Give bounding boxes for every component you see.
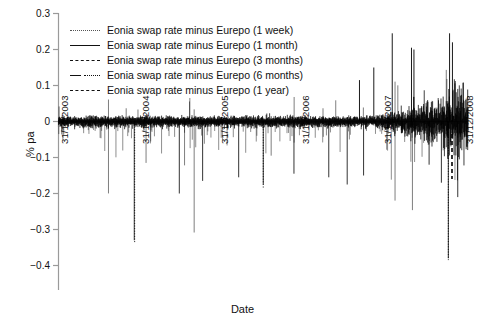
chart-container: % pa Date 0.3 0.2 0.1 0 −0.1 −0.2 −0.3 −… [0, 0, 485, 331]
plot-area [0, 0, 485, 331]
data-series-layer [59, 33, 469, 260]
y-axis-ticks [53, 14, 59, 266]
